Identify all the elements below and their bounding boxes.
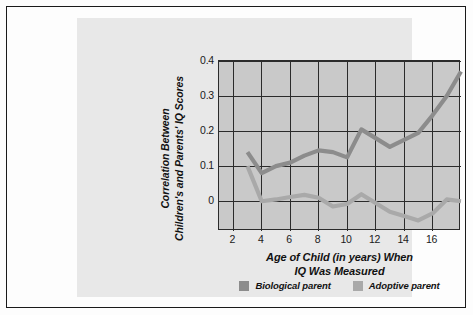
y-tick-label: 0 [189,194,214,206]
x-axis-title: Age of Child (in years) When IQ Was Meas… [197,250,473,278]
y-tick-label: 0.2 [189,124,214,136]
legend-item[interactable]: Biological parent [239,280,330,291]
x-tick-label: 6 [276,233,302,245]
x-tick-label: 14 [390,233,416,245]
x-tick-label: 16 [419,233,445,245]
y-axis-title-line-1: Correlation Between [159,108,171,208]
legend-swatch-icon [239,281,249,291]
legend-item[interactable]: Adoptive parent [353,280,440,291]
legend-label: Biological parent [255,280,330,291]
x-axis-title-line-1: Age of Child (in years) When [266,251,413,263]
y-axis-title: Correlation Between Children's and Paren… [159,59,186,259]
figure-root: Correlation Between Children's and Paren… [0,0,473,315]
x-tick-label: 4 [248,233,274,245]
series-line-biological-parent [247,72,461,174]
chart-legend: Biological parentAdoptive parent [197,280,473,291]
x-tick-label: 2 [219,233,245,245]
x-axis-tick-labels: 246810121416 [218,233,460,249]
legend-swatch-icon [353,281,363,291]
x-tick-label: 10 [333,233,359,245]
series-line-adoptive-parent [247,166,461,220]
legend-label: Adoptive parent [369,280,440,291]
series-lines [219,61,461,231]
x-axis-title-line-2: IQ Was Measured [295,265,385,277]
y-axis-tick-labels: 0.40.30.20.10 [189,60,214,230]
y-tick-label: 0.4 [189,54,214,66]
x-tick-label: 12 [362,233,388,245]
plot-area [218,60,460,230]
y-tick-label: 0.3 [189,89,214,101]
x-tick-label: 8 [305,233,331,245]
y-tick-label: 0.1 [189,159,214,171]
y-axis-title-line-2: Children's and Parents' IQ Scores [172,76,184,241]
chart-panel: Correlation Between Children's and Paren… [77,18,412,297]
